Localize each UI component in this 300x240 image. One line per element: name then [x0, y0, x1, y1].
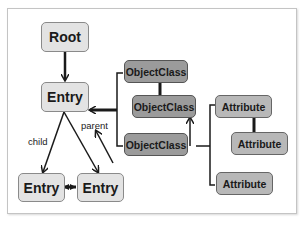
objectclass-node-3: ObjectClass: [124, 133, 188, 156]
entry-node-child-left: Entry: [18, 173, 65, 202]
parent-edge-label: parent: [81, 120, 108, 131]
objectclass-label: ObjectClass: [126, 66, 187, 78]
entry-node-child-right: Entry: [77, 173, 124, 202]
attribute-node-2: Attribute: [231, 132, 288, 155]
attribute-node-3: Attribute: [216, 172, 273, 195]
attribute-label: Attribute: [222, 101, 266, 113]
root-label: Root: [49, 29, 81, 45]
entry-label: Entry: [83, 180, 119, 196]
entry-label: Entry: [47, 89, 83, 105]
entry-node-main: Entry: [41, 82, 89, 112]
attribute-label: Attribute: [238, 138, 282, 150]
objectclass-node-1: ObjectClass: [124, 60, 188, 83]
objectclass-node-2: ObjectClass: [132, 95, 196, 118]
attribute-label: Attribute: [223, 178, 267, 190]
entry-label: Entry: [24, 180, 60, 196]
objectclass-label: ObjectClass: [134, 101, 195, 113]
root-node: Root: [41, 22, 89, 52]
child-edge-label: child: [28, 136, 48, 147]
attribute-node-1: Attribute: [215, 95, 272, 118]
objectclass-label: ObjectClass: [126, 139, 187, 151]
